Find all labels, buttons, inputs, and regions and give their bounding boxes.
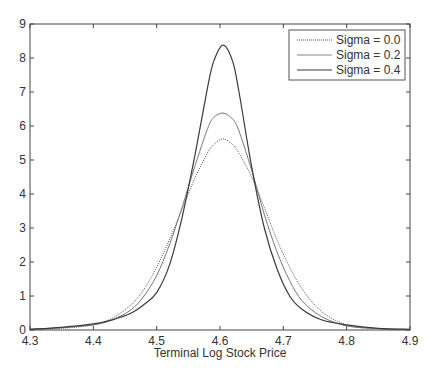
y-tick-label: 6: [19, 119, 26, 133]
x-axis-label: Terminal Log Stock Price: [154, 346, 287, 360]
legend-label-sigma-0-4: Sigma = 0.4: [336, 63, 401, 77]
legend-label-sigma-0-0: Sigma = 0.0: [336, 33, 401, 47]
line-chart: 4.34.44.54.64.74.84.9 0123456789 Termina…: [0, 0, 435, 378]
y-tick-label: 9: [19, 17, 26, 31]
y-tick-label: 0: [19, 323, 26, 337]
x-tick-label: 4.9: [402, 334, 419, 348]
legend: Sigma = 0.0 Sigma = 0.2 Sigma = 0.4: [289, 30, 405, 80]
x-tick-label: 4.4: [85, 334, 102, 348]
y-tick-label: 1: [19, 289, 26, 303]
y-tick-label: 5: [19, 153, 26, 167]
legend-label-sigma-0-2: Sigma = 0.2: [336, 48, 401, 62]
y-tick-labels: 0123456789: [19, 17, 26, 337]
y-tick-label: 8: [19, 51, 26, 65]
y-tick-label: 4: [19, 187, 26, 201]
y-tick-label: 3: [19, 221, 26, 235]
y-tick-label: 7: [19, 85, 26, 99]
y-tick-label: 2: [19, 255, 26, 269]
x-tick-label: 4.8: [338, 334, 355, 348]
